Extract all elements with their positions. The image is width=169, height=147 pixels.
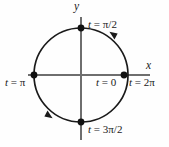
label-t-three-half-pi-eq: = [91,123,103,135]
parametric-unit-circle-figure: y x t = π/2 t = π t = 0 t = 2π t = 3π/2 [0,0,169,147]
label-t-zero-eq: = [99,76,111,88]
point-marker-t-pi [31,72,38,79]
circle-diagram-canvas [0,0,169,147]
y-axis-label: y [74,1,79,12]
label-t-half-pi-val: π/2 [103,18,117,30]
label-t-two-pi: t = 2π [129,77,155,88]
point-marker-t-zero [121,72,128,79]
label-t-pi: t = π [5,77,25,88]
x-axis-label: x [146,60,151,71]
label-t-two-pi-eq: = [132,76,144,88]
point-marker-t-three-half-pi [78,119,85,126]
label-t-pi-val: π [20,76,26,88]
label-t-zero: t = 0 [96,77,116,88]
label-t-three-half-pi-val: 3π/2 [103,123,123,135]
label-t-half-pi-eq: = [91,18,103,30]
point-marker-t-half-pi [78,25,85,32]
label-t-pi-eq: = [8,76,20,88]
label-t-three-half-pi: t = 3π/2 [88,124,122,135]
label-t-zero-val: 0 [111,76,117,88]
label-t-half-pi: t = π/2 [88,19,117,30]
label-t-two-pi-val: 2π [144,76,155,88]
